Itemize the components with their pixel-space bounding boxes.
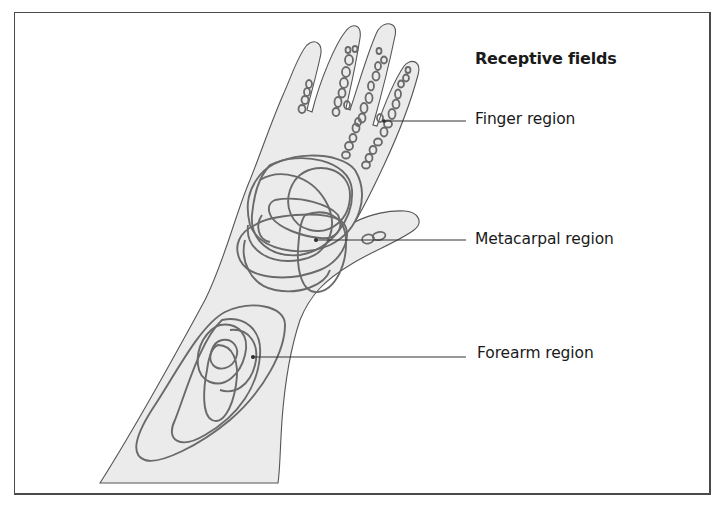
figure-title: Receptive fields (475, 49, 617, 68)
finger-region-label: Finger region (475, 110, 575, 128)
forearm-region-label: Forearm region (477, 344, 594, 362)
metacarpal-region-label: Metacarpal region (475, 230, 614, 248)
arm-hand-illustration (0, 0, 720, 506)
